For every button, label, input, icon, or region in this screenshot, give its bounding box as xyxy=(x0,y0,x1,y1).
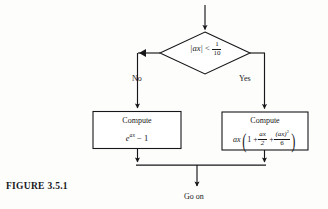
figure-caption: FIGURE 3.5.1 xyxy=(6,182,68,192)
left-expr-one: 1 xyxy=(144,133,148,143)
right-expr-plus2: + xyxy=(269,135,274,144)
flowchart-graphic xyxy=(0,0,328,209)
left-expr-minus: − xyxy=(137,133,142,143)
term2-denominator: 2 xyxy=(258,140,267,148)
decision-condition-label: |ax| < 1 10 xyxy=(163,41,249,57)
no-branch-head xyxy=(139,49,146,57)
right-process-expression: ax(1 +ax2 +(ax)26) xyxy=(222,130,308,147)
condition-fraction: 1 10 xyxy=(212,41,221,57)
right-expr-term2-fraction: ax2 xyxy=(258,131,267,147)
right-expr-term3-fraction: (ax)26 xyxy=(274,130,289,147)
branch-label-yes: Yes xyxy=(239,75,251,83)
fraction-denominator: 10 xyxy=(212,50,221,58)
right-expr-coefficient: ax xyxy=(233,135,241,144)
left-process-title: Compute xyxy=(93,117,181,125)
condition-operator: < xyxy=(205,43,210,53)
term3-denominator: 6 xyxy=(274,140,289,148)
right-expr-paren-close: ) xyxy=(292,135,296,147)
condition-abs-close: | xyxy=(200,43,202,53)
right-expr-term1: 1 xyxy=(247,135,251,144)
term3-exponent: 2 xyxy=(287,129,289,134)
right-expr-plus1: + xyxy=(253,135,258,144)
right-expr-paren-open: ( xyxy=(242,135,246,147)
left-expr-exponent: ax xyxy=(130,132,135,138)
figure-container: |ax| < 1 10 No Yes Compute eax − 1 Compu… xyxy=(0,0,328,209)
branch-label-no: No xyxy=(132,75,142,83)
left-process-expression: eax − 1 xyxy=(93,133,181,142)
exit-label-go-on: Go on xyxy=(184,193,204,201)
right-process-title: Compute xyxy=(222,117,308,125)
term3-numerator-text: (ax) xyxy=(275,130,286,138)
